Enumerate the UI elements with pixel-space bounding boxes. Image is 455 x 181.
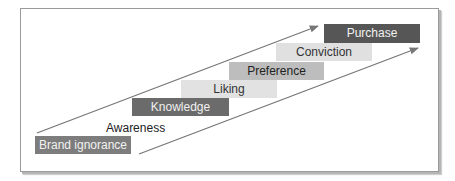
step-brand-ignorance: Brand ignorance: [35, 136, 131, 154]
step-knowledge: Knowledge: [132, 98, 229, 116]
step-conviction: Conviction: [276, 43, 372, 61]
step-purchase: Purchase: [324, 24, 420, 43]
step-awareness: Awareness: [106, 121, 160, 135]
step-liking: Liking: [181, 80, 277, 98]
step-preference: Preference: [229, 62, 324, 80]
